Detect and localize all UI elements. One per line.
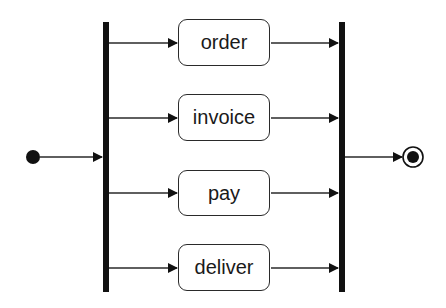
action-label: pay bbox=[208, 182, 240, 205]
action-invoice: invoice bbox=[178, 94, 270, 141]
join-bar bbox=[339, 22, 345, 292]
action-label: invoice bbox=[193, 106, 255, 129]
final-node-inner-icon bbox=[407, 151, 419, 163]
action-order: order bbox=[178, 19, 270, 66]
action-label: deliver bbox=[195, 256, 254, 279]
action-label: order bbox=[201, 31, 248, 54]
activity-diagram: order invoice pay deliver bbox=[0, 0, 446, 308]
fork-bar bbox=[103, 22, 109, 292]
action-deliver: deliver bbox=[178, 244, 270, 291]
action-pay: pay bbox=[178, 170, 270, 216]
initial-node-icon bbox=[26, 150, 40, 164]
